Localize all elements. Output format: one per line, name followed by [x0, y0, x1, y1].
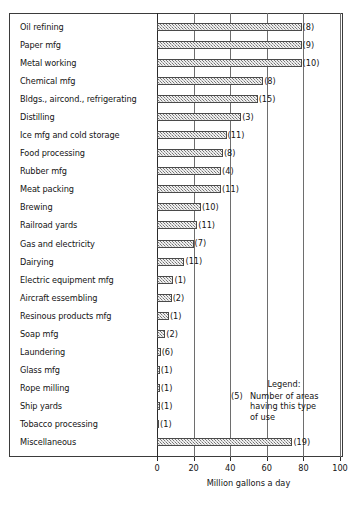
- bar-group: (9): [157, 41, 314, 49]
- x-tick-label-100: 100: [332, 463, 348, 473]
- bar-group: (11): [157, 258, 202, 266]
- bar: [157, 312, 169, 320]
- bar-count-label: (15): [259, 95, 276, 103]
- bar-count-label: (10): [202, 203, 219, 211]
- bar-count-label: (11): [222, 185, 239, 193]
- category-label: Paper mfg: [20, 40, 61, 50]
- chart-row: Resinous products mfg(1): [9, 307, 343, 325]
- legend-line-2: having this type: [250, 401, 316, 411]
- bar: [157, 402, 160, 410]
- bar: [157, 330, 165, 338]
- category-label: Ship yards: [20, 401, 62, 411]
- bar-group: (3): [157, 113, 254, 121]
- bar: [157, 167, 221, 175]
- chart-row: Chemical mfg(8): [9, 72, 343, 90]
- bar-group: (2): [157, 330, 178, 338]
- chart-row: Gas and electricity(7): [9, 235, 343, 253]
- bar-count-label: (9): [303, 41, 315, 49]
- chart-legend: Legend: (5) Number of areas having this …: [231, 379, 343, 422]
- bar-count-label: (2): [166, 330, 178, 338]
- bar-count-label: (11): [198, 221, 215, 229]
- category-label: Food processing: [20, 148, 85, 158]
- horizontal-bar-chart: Oil refining(8)Paper mfg(9)Metal working…: [0, 0, 354, 505]
- category-label: Glass mfg: [20, 365, 60, 375]
- x-axis-title: Million gallons a day: [157, 478, 340, 488]
- bar-count-label: (1): [161, 402, 173, 410]
- category-label: Soap mfg: [20, 329, 58, 339]
- bar-group: (11): [157, 185, 239, 193]
- chart-row: Glass mfg(1): [9, 361, 343, 379]
- bar-count-label: (8): [224, 149, 236, 157]
- chart-row: Metal working(10): [9, 54, 343, 72]
- category-label: Aircraft essembling: [20, 293, 97, 303]
- x-tick-label-80: 80: [298, 463, 308, 473]
- chart-row: Oil refining(8): [9, 18, 343, 36]
- x-tick-60: [267, 457, 268, 461]
- bar: [157, 203, 201, 211]
- category-label: Brewing: [20, 202, 53, 212]
- chart-row: Rubber mfg(4): [9, 162, 343, 180]
- bar: [157, 420, 159, 428]
- bar: [157, 185, 221, 193]
- x-tick-label-0: 0: [154, 463, 159, 473]
- bar-count-label: (6): [162, 348, 174, 356]
- category-label: Laundering: [20, 347, 65, 357]
- bar: [157, 438, 292, 446]
- bar: [157, 95, 258, 103]
- bar-count-label: (19): [293, 438, 310, 446]
- category-label: Chemical mfg: [20, 76, 75, 86]
- category-label: Gas and electricity: [20, 239, 95, 249]
- bar-group: (8): [157, 77, 276, 85]
- bar-group: (8): [157, 23, 314, 31]
- bar: [157, 384, 160, 392]
- chart-row: Bldgs., aircond., refrigerating(15): [9, 90, 343, 108]
- bar: [157, 294, 172, 302]
- bar: [157, 113, 241, 121]
- legend-key: (5): [231, 391, 243, 402]
- x-tick-20: [194, 457, 195, 461]
- bar: [157, 240, 194, 248]
- bar-group: (4): [157, 167, 234, 175]
- x-tick-0: [157, 457, 158, 461]
- x-tick-label-40: 40: [225, 463, 235, 473]
- x-axis: 020406080100: [157, 457, 340, 458]
- bar-count-label: (1): [161, 366, 173, 374]
- bar-group: (1): [157, 384, 172, 392]
- bar-group: (11): [157, 131, 244, 139]
- chart-row: Railroad yards(11): [9, 216, 343, 234]
- bar: [157, 276, 173, 284]
- chart-row: Brewing(10): [9, 198, 343, 216]
- legend-line-1: Number of areas: [250, 391, 319, 401]
- legend-title: Legend:: [225, 379, 343, 390]
- legend-line-3: of use: [250, 412, 275, 422]
- bar-count-label: (1): [161, 384, 173, 392]
- category-label: Dairying: [20, 257, 54, 267]
- bar-count-label: (4): [222, 167, 234, 175]
- bar-count-label: (1): [170, 312, 182, 320]
- chart-row: Electric equipment mfg(1): [9, 271, 343, 289]
- x-tick-40: [230, 457, 231, 461]
- bar-count-label: (3): [242, 113, 254, 121]
- bar-group: (1): [157, 366, 172, 374]
- chart-plot-region: Oil refining(8)Paper mfg(9)Metal working…: [9, 13, 343, 457]
- chart-row: Aircraft essembling(2): [9, 289, 343, 307]
- bar-group: (1): [157, 312, 182, 320]
- bar-group: (15): [157, 95, 275, 103]
- bar-count-label: (1): [174, 276, 186, 284]
- bar-group: (1): [157, 402, 172, 410]
- chart-row: Paper mfg(9): [9, 36, 343, 54]
- x-tick-label-20: 20: [188, 463, 198, 473]
- bar-count-label: (8): [303, 23, 315, 31]
- chart-row: Ice mfg and cold storage(11): [9, 126, 343, 144]
- bar-group: (11): [157, 221, 215, 229]
- category-label: Rubber mfg: [20, 166, 67, 176]
- category-label: Metal working: [20, 58, 76, 68]
- category-label: Railroad yards: [20, 220, 77, 230]
- bar: [157, 221, 197, 229]
- category-label: Tobacco processing: [20, 419, 98, 429]
- x-tick-label-60: 60: [262, 463, 272, 473]
- bar-group: (7): [157, 240, 206, 248]
- bar-group: (19): [157, 438, 310, 446]
- bar-group: (1): [157, 276, 186, 284]
- bar: [157, 348, 161, 356]
